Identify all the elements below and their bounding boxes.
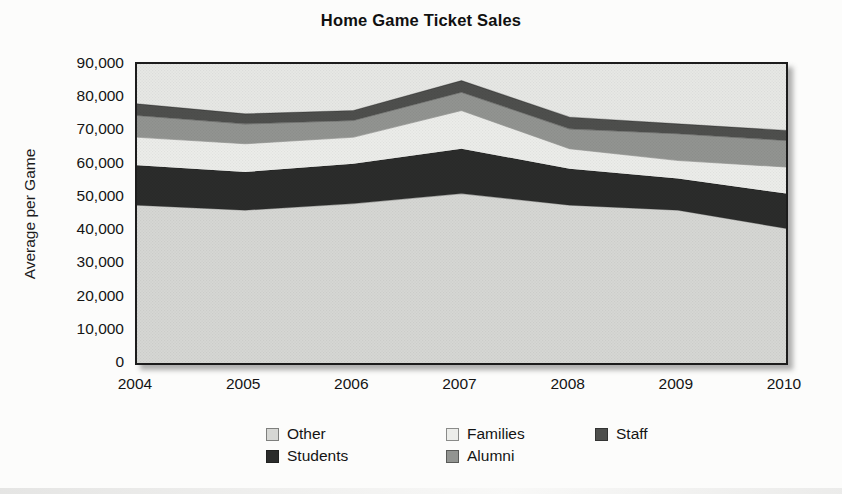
y-tick-label: 10,000 (0, 320, 124, 338)
x-tick-label: 2009 (641, 375, 711, 393)
y-tick-label: 30,000 (0, 253, 124, 271)
y-tick-label: 70,000 (0, 120, 124, 138)
legend-item-students: Students (266, 447, 446, 465)
legend-swatch-families (446, 428, 459, 441)
y-tick-label: 40,000 (0, 220, 124, 238)
stacked-area-plot (137, 64, 786, 363)
scan-artifact (0, 488, 842, 494)
y-tick-label: 0 (0, 353, 124, 371)
legend-item-alumni: Alumni (446, 447, 595, 465)
y-tick-label: 90,000 (0, 54, 124, 72)
chart-figure: Home Game Ticket Sales Average per Game … (0, 0, 842, 494)
y-tick-label: 20,000 (0, 287, 124, 305)
legend: OtherFamiliesStaffStudentsAlumni (266, 425, 725, 465)
legend-label: Students (287, 447, 348, 465)
x-tick-label: 2010 (749, 375, 819, 393)
y-tick-label: 50,000 (0, 187, 124, 205)
legend-swatch-alumni (446, 450, 459, 463)
scan-texture-overlay (137, 64, 786, 363)
x-tick-label: 2005 (208, 375, 278, 393)
y-tick-label: 80,000 (0, 87, 124, 105)
plot-area (135, 62, 788, 365)
x-tick-label: 2007 (425, 375, 495, 393)
y-tick-label: 60,000 (0, 154, 124, 172)
legend-label: Families (467, 425, 525, 443)
chart-title: Home Game Ticket Sales (0, 11, 842, 30)
legend-item-other: Other (266, 425, 446, 443)
legend-swatch-staff (595, 428, 608, 441)
x-tick-label: 2006 (316, 375, 386, 393)
legend-item-families: Families (446, 425, 595, 443)
legend-label: Staff (616, 425, 648, 443)
legend-label: Other (287, 425, 326, 443)
legend-item-staff: Staff (595, 425, 725, 443)
legend-swatch-other (266, 428, 279, 441)
x-tick-label: 2004 (100, 375, 170, 393)
legend-label: Alumni (467, 447, 514, 465)
legend-swatch-students (266, 450, 279, 463)
x-tick-label: 2008 (533, 375, 603, 393)
